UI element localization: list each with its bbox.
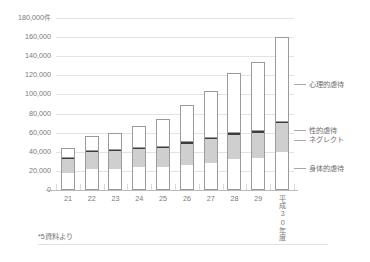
- bar-slot[interactable]: [270, 18, 294, 190]
- bar-segment-psychological[interactable]: [227, 73, 241, 133]
- x-axis-separator: [104, 184, 105, 190]
- legend-label: 性的虐待: [309, 127, 337, 135]
- bar-slot[interactable]: [223, 18, 247, 190]
- legend-label: ネグレクト: [309, 136, 344, 144]
- bar-slot[interactable]: [246, 18, 270, 190]
- bar-slot[interactable]: [127, 18, 151, 190]
- stacked-bar[interactable]: [275, 18, 289, 190]
- stacked-bar[interactable]: [251, 18, 265, 190]
- legend-leader-line: [294, 84, 306, 85]
- stacked-bar[interactable]: [85, 18, 99, 190]
- bar-slot[interactable]: [80, 18, 104, 190]
- bar-slot[interactable]: [151, 18, 175, 190]
- stacked-bar[interactable]: [204, 18, 218, 190]
- bar-segment-psychological[interactable]: [61, 148, 75, 158]
- bar-segment-psychological[interactable]: [180, 105, 194, 142]
- bar-segment-neglect[interactable]: [180, 144, 194, 165]
- legend-item: 身体的虐待: [294, 165, 344, 173]
- legend-item: 心理的虐待: [294, 81, 344, 89]
- bar-segment-neglect[interactable]: [251, 133, 265, 159]
- bar-segment-physical[interactable]: [204, 163, 218, 190]
- bar-segment-sexual[interactable]: [227, 133, 241, 135]
- bar-slot[interactable]: [199, 18, 223, 190]
- bar-segment-neglect[interactable]: [61, 159, 75, 174]
- y-axis-tick-label: 120,000: [25, 72, 51, 79]
- bar-segment-physical[interactable]: [251, 158, 265, 190]
- x-axis-tick-label: 25: [159, 195, 167, 203]
- bar-segment-sexual[interactable]: [204, 138, 218, 139]
- legend-leader-line: [294, 140, 306, 141]
- bar-slot[interactable]: [104, 18, 128, 190]
- legend-label: 身体的虐待: [309, 165, 344, 173]
- bar-segment-psychological[interactable]: [108, 133, 122, 150]
- bar-segment-physical[interactable]: [61, 173, 75, 190]
- bar-slot[interactable]: [175, 18, 199, 190]
- bar-segment-psychological[interactable]: [275, 37, 289, 121]
- bar-segment-sexual[interactable]: [132, 148, 146, 149]
- stacked-bar[interactable]: [227, 18, 241, 190]
- bar-segment-physical[interactable]: [227, 159, 241, 190]
- bar-segment-neglect[interactable]: [204, 139, 218, 162]
- x-axis-tick-label: 28: [231, 195, 239, 203]
- x-axis-tick-label: 26: [183, 195, 191, 203]
- bar-segment-physical[interactable]: [85, 169, 99, 190]
- legend-leader-line: [294, 168, 306, 169]
- chart-container: 180,000件160,000140,000120,000100,00080,0…: [0, 0, 370, 262]
- bar-segment-psychological[interactable]: [85, 136, 99, 150]
- bar-series-group: [56, 18, 294, 190]
- x-axis-tick-label: 22: [88, 195, 96, 203]
- legend-item: 性的虐待: [294, 127, 337, 135]
- x-axis-separator: [175, 184, 176, 190]
- footer: *5資料より: [38, 232, 338, 241]
- stacked-bar[interactable]: [61, 18, 75, 190]
- legend-item: ネグレクト: [294, 136, 344, 144]
- bar-segment-neglect[interactable]: [85, 152, 99, 170]
- bar-segment-sexual[interactable]: [275, 122, 289, 124]
- x-axis-tick-label: 23: [112, 195, 120, 203]
- x-axis-separator: [80, 184, 81, 190]
- x-axis-separator: [151, 184, 152, 190]
- bar-segment-neglect[interactable]: [156, 148, 170, 167]
- stacked-bar[interactable]: [108, 18, 122, 190]
- x-axis-tick-label: 21: [64, 195, 72, 203]
- bar-segment-psychological[interactable]: [132, 126, 146, 147]
- bar-segment-neglect[interactable]: [227, 135, 241, 160]
- bar-segment-physical[interactable]: [132, 167, 146, 190]
- stacked-bar[interactable]: [180, 18, 194, 190]
- x-axis-tick-label: 27: [207, 195, 215, 203]
- bar-segment-sexual[interactable]: [180, 142, 194, 143]
- bar-segment-physical[interactable]: [108, 169, 122, 190]
- bar-segment-psychological[interactable]: [204, 91, 218, 138]
- stacked-bar[interactable]: [156, 18, 170, 190]
- x-axis-separator: [223, 184, 224, 190]
- source-note: *5資料より: [38, 232, 338, 241]
- bar-segment-physical[interactable]: [180, 165, 194, 190]
- bar-segment-neglect[interactable]: [275, 123, 289, 151]
- x-axis-tick-label: 29: [254, 195, 262, 203]
- bar-segment-psychological[interactable]: [156, 119, 170, 146]
- bar-segment-sexual[interactable]: [108, 150, 122, 151]
- x-axis-separator: [270, 184, 271, 190]
- y-axis-tick-label: 60,000: [29, 129, 51, 136]
- x-axis-separator: [56, 184, 57, 190]
- bar-segment-neglect[interactable]: [132, 149, 146, 167]
- y-axis-tick-label: 160,000: [25, 34, 51, 41]
- bar-segment-sexual[interactable]: [251, 131, 265, 132]
- bar-segment-sexual[interactable]: [85, 151, 99, 152]
- bar-segment-psychological[interactable]: [251, 62, 265, 131]
- bar-segment-physical[interactable]: [275, 152, 289, 190]
- stacked-bar[interactable]: [132, 18, 146, 190]
- x-axis-tick-labels: 212223242526272829平成30年度: [56, 190, 294, 250]
- bar-segment-sexual[interactable]: [156, 147, 170, 149]
- y-axis-tick-label: 80,000: [29, 110, 51, 117]
- y-axis-tick-label: 140,000: [25, 53, 51, 60]
- y-axis-unit-label: 件: [44, 14, 51, 21]
- bar-segment-neglect[interactable]: [108, 151, 122, 169]
- bar-segment-physical[interactable]: [156, 167, 170, 190]
- legend-label: 心理的虐待: [309, 81, 344, 89]
- x-axis-separator: [199, 184, 200, 190]
- bar-slot[interactable]: [56, 18, 80, 190]
- y-axis-tick-label: 100,000: [25, 91, 51, 98]
- bar-segment-sexual[interactable]: [61, 158, 75, 159]
- x-axis-separator: [246, 184, 247, 190]
